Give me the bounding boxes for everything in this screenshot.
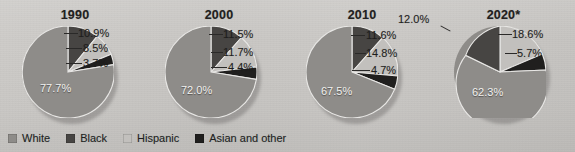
pie-value-white-2010: 67.5% xyxy=(321,85,352,97)
legend-swatch-white xyxy=(8,134,17,143)
pie-panel-1990: 1990 77.7% 10.9% 8.5% xyxy=(0,0,150,128)
leader-line-black-2020 xyxy=(440,25,450,31)
legend-item-asian-and-other[interactable]: Asian and other xyxy=(195,132,286,144)
pie-value-white-2000: 72.0% xyxy=(181,84,212,96)
legend-label-hispanic: Hispanic xyxy=(137,132,179,144)
pie-svg-1990 xyxy=(22,26,114,118)
leader-line-black-2010 xyxy=(351,35,365,36)
leader-line-hispanic-2020 xyxy=(498,34,512,35)
pie-value-hispanic-1990: 8.5% xyxy=(83,42,108,54)
pie-slices-1990 xyxy=(22,26,114,118)
pie-title-1990: 1990 xyxy=(0,8,150,22)
leader-line-asian-2000 xyxy=(211,67,227,68)
pie-value-white-1990: 77.7% xyxy=(40,82,71,94)
pie-value-black-2010: 11.6% xyxy=(366,29,396,41)
legend-label-asian-and-other: Asian and other xyxy=(209,132,286,144)
leader-line-asian-2010 xyxy=(352,70,370,71)
legend-swatch-hispanic xyxy=(123,134,132,143)
leader-line-hispanic-2010 xyxy=(355,53,366,54)
pie-value-asian-2000: 4.4% xyxy=(228,61,253,73)
pie-value-hispanic-2020: 18.6% xyxy=(512,28,543,40)
pie-value-black-1990: 10.9% xyxy=(78,27,109,39)
legend-label-black: Black xyxy=(80,132,107,144)
pie-value-black-2000: 11.5% xyxy=(223,28,253,40)
pie-value-asian-2020: 5.7% xyxy=(517,47,542,59)
legend-label-white: White xyxy=(22,132,50,144)
leader-line-hispanic-1990 xyxy=(66,48,82,49)
leader-line-black-1990 xyxy=(64,33,78,34)
legend: White Black Hispanic Asian and other xyxy=(8,130,302,146)
pie-title-2020: 2020* xyxy=(432,8,575,22)
pie-value-white-2020: 62.3% xyxy=(472,86,503,98)
pie-value-hispanic-2010: 14.8% xyxy=(366,47,397,59)
leader-line-asian-1990 xyxy=(66,63,82,64)
legend-item-hispanic[interactable]: Hispanic xyxy=(123,132,179,144)
legend-swatch-asian-and-other xyxy=(195,134,204,143)
pie-value-asian-2010: 4.7% xyxy=(371,64,396,76)
pie-value-black-2020: 12.0% xyxy=(398,13,429,25)
leader-line-hispanic-2000 xyxy=(211,52,223,53)
legend-swatch-black xyxy=(66,134,75,143)
legend-item-white[interactable]: White xyxy=(8,132,50,144)
pie-panel-2000: 2000 72.0% 11.5% 11.7% xyxy=(145,0,293,128)
pie-panel-2020: 2020* 62.3% 18.6% 5.7% xyxy=(432,0,575,128)
pie-chart-1990: 77.7% xyxy=(22,26,114,118)
pie-value-hispanic-2000: 11.7% xyxy=(223,46,253,58)
legend-item-black[interactable]: Black xyxy=(66,132,107,144)
pie-title-2000: 2000 xyxy=(145,8,293,22)
leader-line-black-2000 xyxy=(209,34,223,35)
figure-canvas: 1990 77.7% 10.9% 8.5% xyxy=(0,0,575,152)
pie-value-asian-1990: 3.7% xyxy=(83,57,108,69)
leader-line-asian-2020 xyxy=(505,53,517,54)
